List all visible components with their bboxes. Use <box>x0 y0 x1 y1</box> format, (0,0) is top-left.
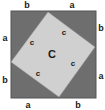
label-top-a: a <box>69 0 75 10</box>
label-center-area: C <box>48 48 56 60</box>
label-hyp-lower-right: c <box>71 59 76 68</box>
label-left-b: b <box>2 75 8 85</box>
label-left-a: a <box>2 33 8 43</box>
label-hyp-upper-right: c <box>62 28 67 37</box>
label-bottom-b: b <box>75 100 81 110</box>
label-right-a: a <box>98 71 104 81</box>
label-right-b: b <box>98 23 104 33</box>
pythagorean-diagram: b a b a a b a b c c c c C <box>0 0 105 110</box>
label-hyp-upper-left: c <box>30 38 35 47</box>
label-hyp-lower-left: c <box>36 69 41 78</box>
label-top-b: b <box>24 0 30 10</box>
label-bottom-a: a <box>25 100 31 110</box>
